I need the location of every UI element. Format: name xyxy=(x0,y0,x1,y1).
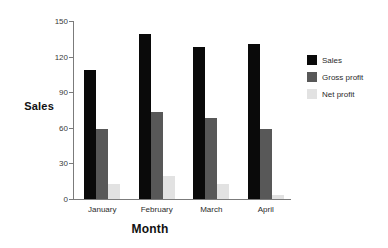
bar-january-gross-profit[interactable] xyxy=(96,129,108,199)
y-tick-mark xyxy=(69,57,73,58)
bar-group-february xyxy=(139,21,175,199)
bar-april-net-profit[interactable] xyxy=(272,195,284,199)
bar-february-net-profit[interactable] xyxy=(163,176,175,199)
bar-march-gross-profit[interactable] xyxy=(205,118,217,199)
y-tick-label: 90 xyxy=(42,88,68,97)
y-axis-title: Sales xyxy=(10,100,54,112)
bar-april-sales[interactable] xyxy=(248,44,260,199)
y-tick-mark xyxy=(69,21,73,22)
legend-item-sales[interactable]: Sales xyxy=(307,55,363,65)
legend-swatch-icon xyxy=(307,55,317,65)
bar-january-net-profit[interactable] xyxy=(108,184,120,199)
bar-february-gross-profit[interactable] xyxy=(151,112,163,199)
legend-swatch-icon xyxy=(307,72,317,82)
legend-label: Sales xyxy=(322,56,342,65)
legend-item-net-profit[interactable]: Net profit xyxy=(307,89,363,99)
bar-april-gross-profit[interactable] xyxy=(260,129,272,199)
bar-march-sales[interactable] xyxy=(193,47,205,199)
bar-january-sales[interactable] xyxy=(84,70,96,199)
legend-item-gross-profit[interactable]: Gross profit xyxy=(307,72,363,82)
x-axis-title: Month xyxy=(0,222,300,236)
x-tick-label-march: March xyxy=(181,205,241,214)
y-tick-label: 120 xyxy=(42,53,68,62)
bar-group-april xyxy=(248,21,284,199)
bar-february-sales[interactable] xyxy=(139,34,151,199)
bar-chart: Sales 0306090120150 JanuaryFebruaryMarch… xyxy=(0,0,388,248)
y-tick-mark xyxy=(69,92,73,93)
x-tick-label-february: February xyxy=(127,205,187,214)
y-tick-label: 150 xyxy=(42,17,68,26)
plot-area: 0306090120150 xyxy=(73,21,291,199)
y-tick-label: 0 xyxy=(42,195,68,204)
legend-label: Gross profit xyxy=(322,73,363,82)
x-tick-label-april: April xyxy=(236,205,296,214)
legend-swatch-icon xyxy=(307,89,317,99)
y-axis-line xyxy=(73,21,74,199)
y-tick-label: 60 xyxy=(42,124,68,133)
y-tick-label: 30 xyxy=(42,159,68,168)
x-tick-label-january: January xyxy=(72,205,132,214)
y-tick-mark xyxy=(69,199,73,200)
bar-group-march xyxy=(193,21,229,199)
bar-march-net-profit[interactable] xyxy=(217,184,229,199)
x-axis-line xyxy=(73,199,291,200)
legend-label: Net profit xyxy=(322,90,354,99)
legend: SalesGross profitNet profit xyxy=(307,55,363,106)
bar-group-january xyxy=(84,21,120,199)
y-tick-mark xyxy=(69,163,73,164)
y-tick-mark xyxy=(69,128,73,129)
